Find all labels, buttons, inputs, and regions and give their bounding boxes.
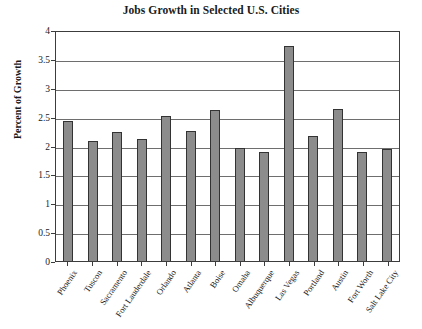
bar-slot (105, 32, 130, 261)
bar[interactable] (259, 152, 269, 261)
bar-slot (301, 32, 326, 261)
bar-slot (81, 32, 106, 261)
x-tick-mark (215, 262, 216, 266)
y-tick-label: 0.5 (4, 228, 50, 238)
x-tick-label: Tuscon (82, 268, 105, 294)
bar-slot (154, 32, 179, 261)
bar-slot (179, 32, 204, 261)
bar[interactable] (137, 139, 147, 261)
bar-slot (228, 32, 253, 261)
x-tick-label: Orlando (154, 268, 178, 297)
x-tick-mark (92, 262, 93, 266)
x-tick-label: Las Vegas (273, 268, 301, 302)
y-tick-label: 4 (4, 26, 50, 36)
chart-title: Jobs Growth in Selected U.S. Cities (0, 4, 422, 16)
x-tick-mark (166, 262, 167, 266)
y-tick-label: 1.5 (4, 170, 50, 180)
x-tick-mark (240, 262, 241, 266)
y-tick-label: 2.5 (4, 113, 50, 123)
x-tick-label: Phoenix (55, 268, 79, 297)
x-tick-mark (117, 262, 118, 266)
bar-slot (277, 32, 302, 261)
x-tick-mark (338, 262, 339, 266)
bar-slot (203, 32, 228, 261)
bar-slot (375, 32, 400, 261)
bar-slot (326, 32, 351, 261)
x-tick-mark (264, 262, 265, 266)
bar[interactable] (186, 131, 196, 261)
x-tick-mark (67, 262, 68, 266)
bar[interactable] (112, 132, 122, 261)
y-tick-label: 2 (4, 142, 50, 152)
y-tick-label: 3 (4, 84, 50, 94)
bar[interactable] (308, 136, 318, 261)
bar[interactable] (210, 110, 220, 261)
x-tick-mark (191, 262, 192, 266)
x-tick-label: Portland (301, 268, 326, 298)
bar-series (56, 32, 399, 261)
chart-page: Jobs Growth in Selected U.S. Cities Perc… (0, 0, 422, 329)
y-tick-mark (51, 262, 55, 263)
y-tick-label: 3.5 (4, 55, 50, 65)
x-tick-mark (388, 262, 389, 266)
x-tick-mark (363, 262, 364, 266)
bar[interactable] (357, 152, 367, 261)
x-tick-mark (314, 262, 315, 266)
x-tick-label: Atlanta (180, 268, 203, 294)
plot-area (55, 31, 400, 262)
bar[interactable] (284, 46, 294, 261)
bar[interactable] (235, 148, 245, 261)
bar[interactable] (161, 116, 171, 261)
bar[interactable] (63, 121, 73, 261)
x-tick-label: Austin (329, 268, 350, 293)
bar-slot (56, 32, 81, 261)
bar-slot (130, 32, 155, 261)
x-tick-mark (141, 262, 142, 266)
bar[interactable] (333, 109, 343, 261)
x-tick-mark (289, 262, 290, 266)
bar-slot (252, 32, 277, 261)
y-tick-label: 1 (4, 199, 50, 209)
x-tick-label: Boise (208, 268, 227, 290)
x-tick-label: Omaha (230, 268, 252, 294)
y-tick-label: 0 (4, 257, 50, 267)
bar[interactable] (88, 141, 98, 261)
bar-slot (350, 32, 375, 261)
bar[interactable] (382, 149, 392, 261)
